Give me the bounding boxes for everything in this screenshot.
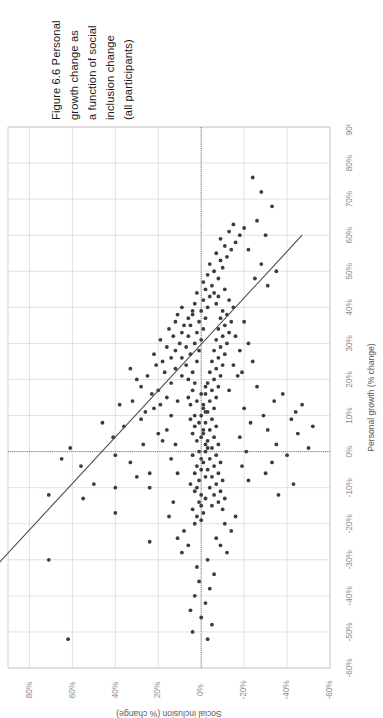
data-point [128,367,132,371]
caption-line-2: growth change as [68,8,80,120]
data-point [101,421,105,425]
data-point [174,442,178,446]
data-point [212,269,216,273]
data-point [152,406,156,410]
data-point [208,428,212,432]
data-point [143,410,147,414]
data-point [300,403,304,407]
data-point [167,327,171,331]
data-point [191,370,195,374]
data-point [189,323,193,327]
data-point [167,515,171,519]
data-point [208,295,212,299]
data-point [212,464,216,468]
data-point [139,385,143,389]
data-point [201,428,205,432]
data-point [204,497,208,501]
data-point [193,424,197,428]
data-point [148,540,152,544]
data-point [223,352,227,356]
data-point [176,399,180,403]
data-point [244,450,248,454]
data-point [242,320,246,324]
data-point [176,471,180,475]
data-point [274,269,278,273]
data-point [216,295,220,299]
data-point [234,241,238,245]
grid-lines [8,127,330,668]
data-point [219,461,223,465]
data-point [180,305,184,309]
data-point [141,442,145,446]
data-point [201,327,205,331]
data-point [113,511,117,515]
data-point [165,345,169,349]
data-point [182,323,186,327]
data-point [199,468,203,472]
caption-line-3: a function of social [86,8,98,120]
data-point [227,331,231,335]
data-point [135,475,139,479]
x-tick-label: 50% [345,263,354,279]
data-point [165,428,169,432]
data-point [221,507,225,511]
data-point [251,360,255,364]
data-point [197,479,201,483]
data-point [197,349,201,353]
data-point [195,515,199,519]
data-point [191,432,195,436]
y-axis-tick-labels: -60%-40%-20%0%20%40%60%80% [25,680,335,699]
data-point [146,374,150,378]
data-point [186,543,190,547]
data-point [113,453,117,457]
data-point [289,417,293,421]
data-point [223,287,227,291]
data-points [47,176,315,641]
y-tick-label: 20% [153,682,162,698]
data-point [242,226,246,230]
data-point [156,432,160,436]
data-point [212,349,216,353]
data-point [296,432,300,436]
data-point [206,558,210,562]
data-point [128,461,132,465]
data-point [212,572,216,576]
data-point [238,435,242,439]
data-point [247,479,251,483]
data-point [223,497,227,501]
data-point [189,403,193,407]
data-point [266,428,270,432]
data-point [171,500,175,504]
data-point [191,309,195,313]
data-point [206,410,210,414]
data-point [253,277,257,281]
data-point [193,594,197,598]
x-tick-label: 80% [345,155,354,171]
data-point [219,489,223,493]
data-point [204,421,208,425]
data-point [197,320,201,324]
data-point [169,381,173,385]
data-point [264,233,268,237]
data-point [206,637,210,641]
data-point [193,471,197,475]
data-point [191,453,195,457]
data-point [195,565,199,569]
data-point [186,378,190,382]
data-point [221,363,225,367]
data-point [169,414,173,418]
data-point [214,536,218,540]
data-point [199,616,203,620]
data-point [193,522,197,526]
data-point [189,482,193,486]
data-point [214,482,218,486]
figure-caption: Figure 6.6 Personal growth change as a f… [38,8,156,120]
y-tick-label: -60% [325,680,334,699]
data-point [66,637,70,641]
data-point [180,356,184,360]
data-point [131,399,135,403]
data-point [191,313,195,317]
data-point [216,471,220,475]
data-point [206,273,210,277]
data-point [214,453,218,457]
